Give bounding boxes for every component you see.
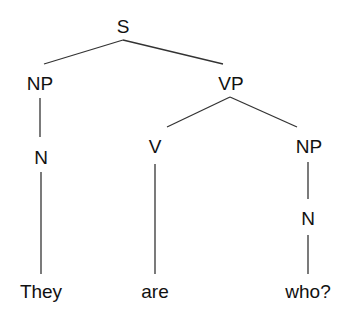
word-who: who? bbox=[285, 282, 330, 301]
node-s: S bbox=[117, 17, 130, 36]
edge-vp-np bbox=[230, 97, 297, 127]
node-np-object: NP bbox=[296, 137, 322, 156]
edge-vp-v bbox=[167, 97, 230, 127]
tree-edges bbox=[0, 0, 349, 318]
edge-s-vp bbox=[123, 40, 223, 64]
node-v: V bbox=[149, 137, 162, 156]
edge-s-np bbox=[44, 40, 123, 64]
node-n-object: N bbox=[301, 209, 315, 228]
word-are: are bbox=[141, 282, 168, 301]
word-they: They bbox=[20, 282, 62, 301]
node-np-subject: NP bbox=[27, 74, 53, 93]
node-n-subject: N bbox=[34, 148, 48, 167]
node-vp: VP bbox=[218, 74, 243, 93]
